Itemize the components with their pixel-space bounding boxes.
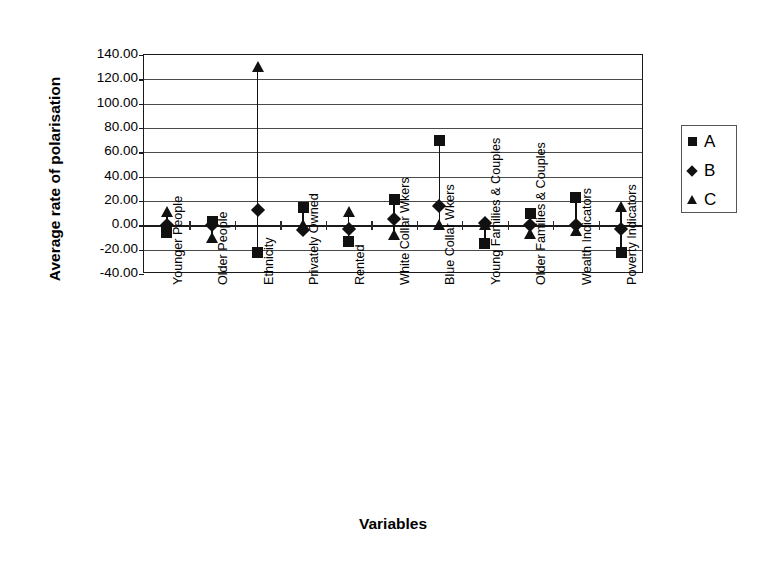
legend-item-c[interactable]: C (682, 185, 736, 214)
x-tick-label: Poverty Indicators (625, 184, 639, 285)
x-tick-label: Wealth Indicators (580, 188, 594, 285)
x-tick-mark (280, 221, 281, 230)
x-tick-mark (508, 221, 509, 230)
legend-item-a[interactable]: A (682, 127, 736, 156)
y-tick-label: 80.00 (68, 120, 138, 133)
y-tick-label: 60.00 (68, 144, 138, 157)
data-point-b (251, 202, 265, 216)
gridline (144, 152, 642, 153)
x-tick-mark (462, 221, 463, 230)
gridline (144, 128, 642, 129)
legend-item-b[interactable]: B (682, 156, 736, 185)
y-tick-label: -20.00 (68, 242, 138, 255)
x-axis-title: Variables (143, 515, 643, 533)
y-tick-mark (139, 152, 144, 153)
legend-label: B (702, 162, 715, 179)
x-axis-tick-labels: Younger PeopleOlder PeopleEthnicityPriva… (143, 285, 643, 485)
y-tick-mark (139, 79, 144, 80)
y-axis-tick-labels: 140.00120.00100.0080.0060.0040.0020.000.… (60, 0, 138, 565)
chart-legend: ABC (681, 125, 737, 213)
data-point-b (341, 222, 355, 236)
y-tick-mark (139, 104, 144, 105)
y-tick-mark (139, 225, 144, 226)
y-tick-label: 100.00 (68, 96, 138, 109)
triangle-marker-icon (682, 190, 702, 210)
legend-label: C (702, 191, 716, 208)
connector-stem (257, 67, 259, 252)
y-tick-label: 0.00 (68, 217, 138, 230)
y-tick-label: 40.00 (68, 169, 138, 182)
y-tick-mark (139, 128, 144, 129)
x-tick-label: Ethnicity (262, 237, 276, 285)
x-tick-mark (235, 221, 236, 230)
gridline (144, 104, 642, 105)
x-tick-label: Older People (216, 211, 230, 285)
y-tick-label: 120.00 (68, 71, 138, 84)
y-tick-mark (139, 177, 144, 178)
x-tick-label: Blue Collar Wkers (443, 184, 457, 285)
data-point-c (343, 206, 355, 217)
x-tick-mark (189, 221, 190, 230)
y-tick-mark (139, 55, 144, 56)
y-tick-label: 20.00 (68, 193, 138, 206)
y-tick-label: 140.00 (68, 47, 138, 60)
gridline (144, 79, 642, 80)
y-tick-mark (139, 250, 144, 251)
x-tick-label: Young Families & Couples (489, 138, 503, 285)
data-point-a (434, 135, 445, 146)
x-tick-label: Privately Owned (307, 193, 321, 285)
square-marker-icon (682, 132, 702, 152)
legend-label: A (702, 133, 715, 150)
x-tick-mark (553, 221, 554, 230)
x-tick-mark (599, 221, 600, 230)
diamond-marker-icon (682, 161, 702, 181)
data-point-c (252, 61, 264, 72)
x-tick-mark (371, 221, 372, 230)
x-tick-label: Older Families & Couples (534, 142, 548, 285)
x-tick-label: Younger People (171, 196, 185, 285)
chart-figure: Average rate of polarisation 140.00120.0… (0, 0, 772, 565)
x-tick-label: Rented (353, 244, 367, 285)
gridline (144, 177, 642, 178)
x-tick-mark (326, 221, 327, 230)
x-tick-mark (417, 221, 418, 230)
y-tick-mark (139, 274, 144, 275)
y-tick-mark (139, 201, 144, 202)
x-tick-label: White Collar Wkers (398, 177, 412, 285)
y-tick-label: -40.00 (68, 266, 138, 279)
